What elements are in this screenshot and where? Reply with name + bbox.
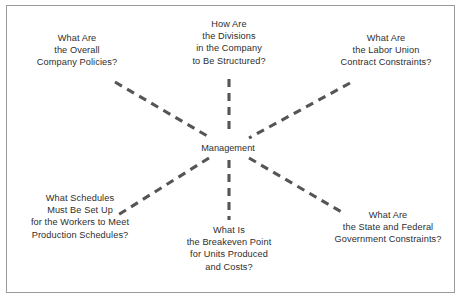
node-line: to Be Structured? xyxy=(167,55,291,67)
connector-bottom-right xyxy=(249,158,345,214)
hub-label: Management xyxy=(188,142,268,154)
node-line: Contract Constraints? xyxy=(318,56,454,68)
connector-top-left xyxy=(115,82,209,137)
node-line: What Are xyxy=(12,32,142,44)
node-line: the State and Federal xyxy=(320,221,456,233)
node-labor-union-contract: What Are the Labor Union Contract Constr… xyxy=(318,32,454,69)
node-line: for Units Produced xyxy=(166,248,292,260)
node-line: for the Workers to Meet xyxy=(10,216,150,228)
node-line: in the Company xyxy=(167,42,291,54)
node-line: Company Policies? xyxy=(12,56,142,68)
node-line: and Costs? xyxy=(166,261,292,273)
node-line: How Are xyxy=(167,18,291,30)
node-government-constraints: What Are the State and Federal Governmen… xyxy=(320,209,456,246)
node-breakeven-point: What Is the Breakeven Point for Units Pr… xyxy=(166,224,292,273)
connector-top-right xyxy=(249,83,350,138)
node-company-policies: What Are the Overall Company Policies? xyxy=(12,32,142,69)
hub-node: Management xyxy=(188,142,268,154)
node-line: Government Constraints? xyxy=(320,233,456,245)
node-worker-schedules: What Schedules Must Be Set Up for the Wo… xyxy=(10,192,150,241)
node-line: What Are xyxy=(320,209,456,221)
node-division-structure: How Are the Divisions in the Company to … xyxy=(167,18,291,67)
node-line: What Are xyxy=(318,32,454,44)
diagram-page: Management What Are the Overall Company … xyxy=(0,0,463,300)
node-line: What Is xyxy=(166,224,292,236)
node-line: Must Be Set Up xyxy=(10,204,150,216)
node-line: Production Schedules? xyxy=(10,229,150,241)
node-line: the Overall xyxy=(12,44,142,56)
node-line: the Divisions xyxy=(167,30,291,42)
node-line: the Labor Union xyxy=(318,44,454,56)
node-line: the Breakeven Point xyxy=(166,236,292,248)
node-line: What Schedules xyxy=(10,192,150,204)
